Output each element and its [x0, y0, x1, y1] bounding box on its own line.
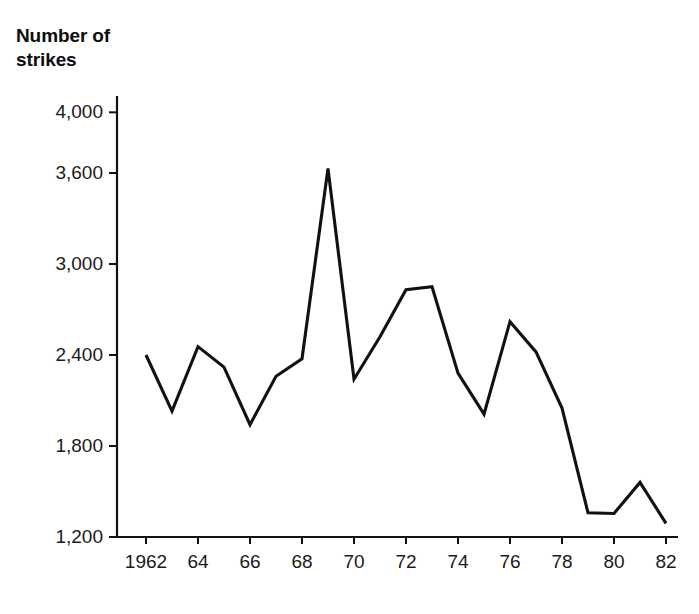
y-axis-tick-label: 2,400: [55, 344, 103, 366]
axes-group: [109, 96, 678, 544]
x-axis-tick-label: 68: [291, 551, 312, 573]
x-axis-tick-label: 78: [551, 551, 572, 573]
y-axis-tick-label: 3,600: [55, 162, 103, 184]
y-axis-ticks: [109, 112, 117, 537]
y-axis-tick-label: 1,200: [55, 526, 103, 548]
x-axis-tick-label: 1962: [125, 551, 167, 573]
x-axis-tick-label: 82: [655, 551, 676, 573]
x-axis-tick-label: 70: [343, 551, 364, 573]
x-axis-tick-label: 74: [447, 551, 468, 573]
chart-figure: Number ofstrikes 4,0003,6003,0002,4001,8…: [0, 0, 699, 614]
data-series-line: [146, 168, 666, 523]
plot-area: 4,0003,6003,0002,4001,8001,200 196264666…: [0, 0, 699, 614]
x-axis-tick-label: 66: [239, 551, 260, 573]
line-chart-svg: [0, 0, 699, 614]
y-axis-tick-label: 4,000: [55, 101, 103, 123]
x-axis-tick-label: 64: [187, 551, 208, 573]
y-axis-tick-label: 1,800: [55, 435, 103, 457]
x-axis-tick-label: 72: [395, 551, 416, 573]
y-axis-tick-label: 3,000: [55, 253, 103, 275]
x-axis-tick-label: 80: [603, 551, 624, 573]
x-axis-tick-label: 76: [499, 551, 520, 573]
